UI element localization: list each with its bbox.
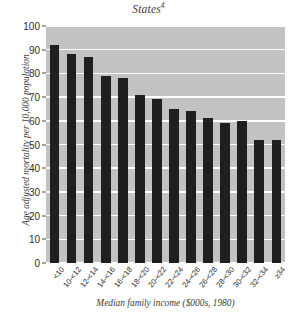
chart-figure: States4 Age adjusted mortality per 10,00… xyxy=(0,0,297,316)
bar xyxy=(135,95,145,263)
y-tick-label: 50 xyxy=(29,139,40,150)
bar xyxy=(169,109,179,263)
y-tick-label: 70 xyxy=(29,92,40,103)
bar xyxy=(220,123,230,263)
y-tick-label: 60 xyxy=(29,115,40,126)
y-tick-label: 10 xyxy=(29,234,40,245)
bar xyxy=(67,54,77,263)
bar xyxy=(50,45,60,263)
y-tick-mark xyxy=(42,239,46,240)
y-tick-label: 100 xyxy=(23,21,40,32)
bar xyxy=(203,118,213,263)
y-tick-label: 80 xyxy=(29,68,40,79)
bar xyxy=(237,121,247,263)
y-tick-mark xyxy=(42,168,46,169)
y-tick-mark xyxy=(42,26,46,27)
bar xyxy=(272,140,282,263)
y-tick-mark xyxy=(42,120,46,121)
x-axis-ticks: <1010-<1212-<1414-<1616-<1818-<2020-<222… xyxy=(46,263,285,303)
y-tick-label: 0 xyxy=(34,258,40,269)
y-tick-mark xyxy=(42,215,46,216)
bar xyxy=(84,57,94,263)
plot-area xyxy=(46,26,285,263)
y-tick-label: 30 xyxy=(29,186,40,197)
y-tick-label: 90 xyxy=(29,44,40,55)
y-tick-mark xyxy=(42,144,46,145)
bar-series xyxy=(46,26,285,263)
y-axis-ticks: 1009080706050403020100 xyxy=(0,0,46,316)
bar xyxy=(186,111,196,263)
y-tick-mark xyxy=(42,73,46,74)
y-tick-mark xyxy=(42,191,46,192)
y-tick-label: 40 xyxy=(29,163,40,174)
bar xyxy=(254,140,264,263)
bar xyxy=(152,99,162,263)
chart-title-footnote-marker: 4 xyxy=(161,1,165,10)
chart-title-text: States xyxy=(132,3,161,15)
bar xyxy=(118,78,128,263)
y-tick-label: 20 xyxy=(29,210,40,221)
bar xyxy=(101,76,111,263)
x-axis-title: Median family income ($000s, 1980) xyxy=(46,298,285,308)
y-tick-mark xyxy=(42,97,46,98)
y-tick-mark xyxy=(42,49,46,50)
